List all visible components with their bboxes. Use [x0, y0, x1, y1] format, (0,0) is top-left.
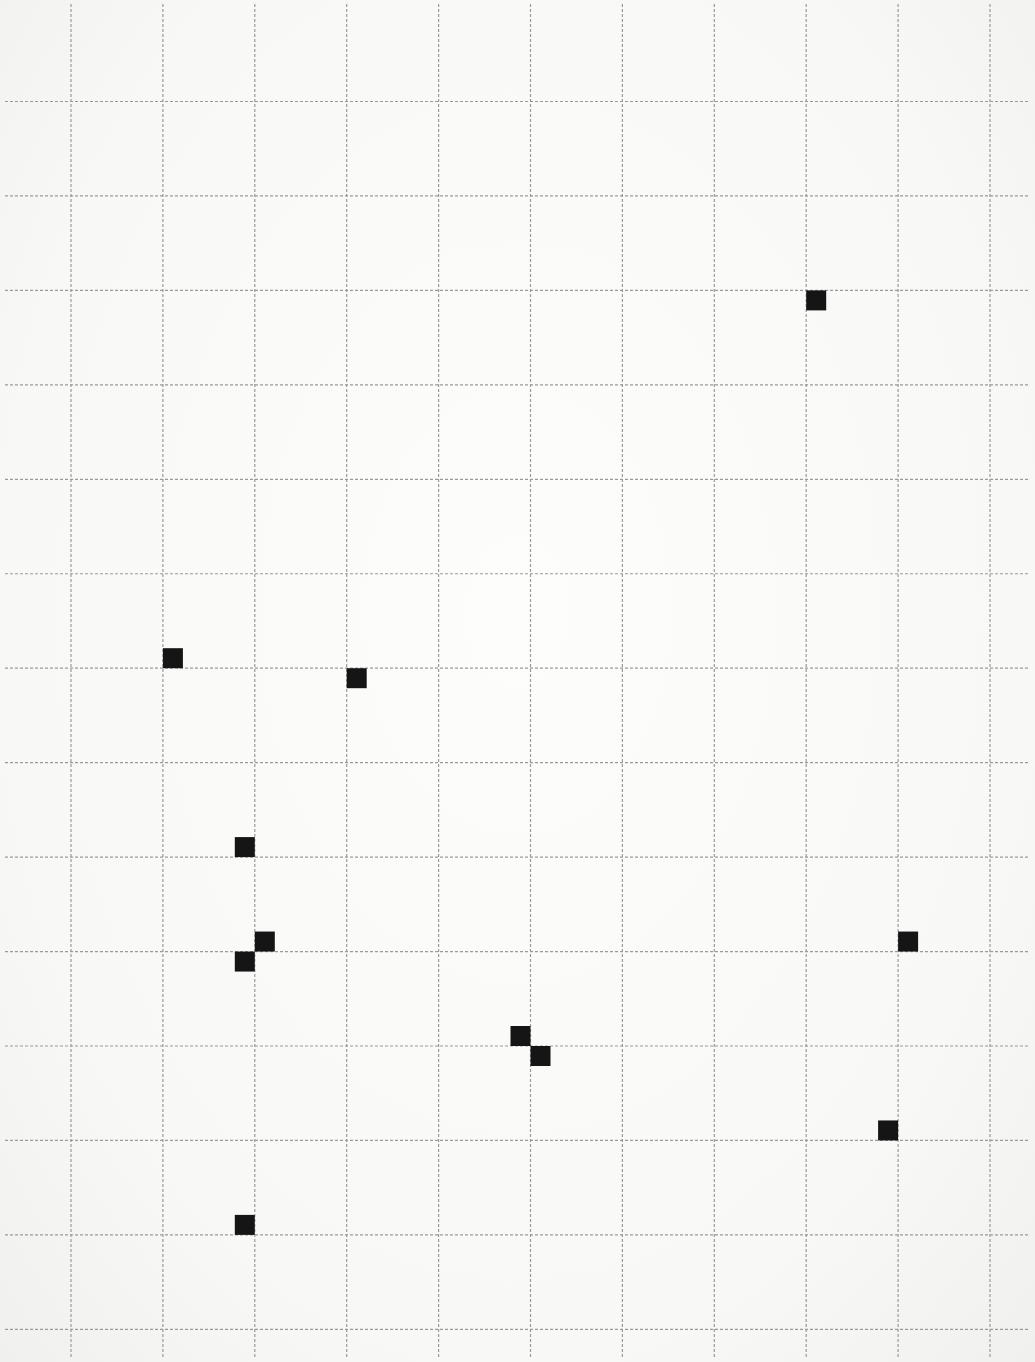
square-marker: [531, 1046, 551, 1066]
square-marker: [235, 952, 255, 972]
grid-diagram: [0, 0, 1035, 1362]
square-marker: [347, 668, 367, 688]
square-marker: [511, 1026, 531, 1046]
square-marker: [235, 837, 255, 857]
grid-lines: [5, 4, 1028, 1358]
square-marker: [806, 290, 826, 310]
square-marker: [255, 932, 275, 952]
square-marker: [898, 932, 918, 952]
square-marker: [235, 1215, 255, 1235]
square-marker: [878, 1120, 898, 1140]
square-marker: [163, 648, 183, 668]
grid-paper-sheet: [0, 0, 1035, 1362]
